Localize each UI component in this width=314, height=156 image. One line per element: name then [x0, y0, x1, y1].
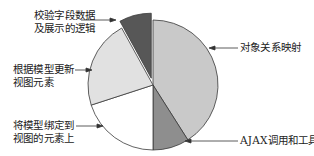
label-validate: 校验字段数据 及展示的逻辑: [34, 9, 95, 35]
arrowhead-icon: [209, 46, 215, 50]
label-validate-line1: 校验字段数据: [34, 9, 95, 22]
label-update: 根据模型更新 视图元素: [13, 63, 74, 89]
label-bind-line2: 视图的元素上: [13, 132, 74, 145]
label-bind: 将模型绑定到 视图的元素上: [13, 119, 74, 145]
label-update-line1: 根据模型更新: [13, 63, 74, 76]
label-update-line2: 视图元素: [13, 76, 74, 89]
label-bind-line1: 将模型绑定到: [13, 119, 74, 132]
label-orm: 对象关系映射: [240, 41, 301, 54]
pie-slices: [88, 13, 218, 150]
arrowhead-icon: [110, 18, 116, 22]
label-ajax-text: AJAX调用和工具库: [240, 134, 314, 146]
label-ajax: AJAX调用和工具库: [240, 134, 314, 147]
label-validate-line2: 及展示的逻辑: [34, 22, 95, 35]
label-orm-text: 对象关系映射: [240, 41, 301, 53]
